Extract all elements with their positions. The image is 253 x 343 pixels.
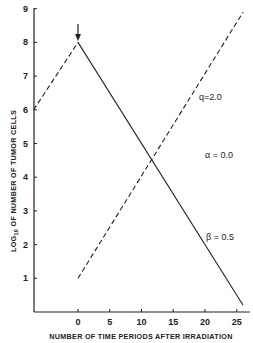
y-tick-label: 9 [23, 4, 28, 14]
x-axis-label: NUMBER OF TIME PERIODS AFTER IRRADIATION [49, 332, 232, 341]
x-tick-label: 20 [200, 317, 210, 327]
irradiation-arrow-icon [75, 24, 81, 41]
y-tick-label: 7 [23, 71, 28, 81]
y-tick-label: 8 [23, 37, 28, 47]
y-tick-label: 1 [23, 273, 28, 283]
series-line-1 [78, 42, 243, 305]
y-axis-label: LOG10 OF NUMBER OF TUMOR CELLS [9, 110, 19, 252]
y-tick-label: 3 [23, 206, 28, 216]
chart: 123456789 0510152025 q=2.0 α = 0.0 β = 0… [0, 0, 253, 343]
annotation-alpha: α = 0.0 [205, 150, 233, 160]
x-tick-label: 5 [107, 317, 112, 327]
y-ticks: 123456789 [23, 4, 37, 284]
x-tick-label: 0 [75, 317, 80, 327]
y-tick-label: 2 [23, 240, 28, 250]
x-tick-label: 15 [168, 317, 178, 327]
y-tick-label: 4 [23, 172, 28, 182]
x-tick-label: 10 [136, 317, 146, 327]
y-tick-label: 5 [23, 139, 28, 149]
x-tick-label: 25 [232, 317, 242, 327]
series-line-0 [34, 42, 78, 109]
y-tick-label: 6 [23, 105, 28, 115]
annotation-beta: β = 0.5 [206, 232, 234, 242]
annotation-q: q=2.0 [199, 92, 222, 102]
